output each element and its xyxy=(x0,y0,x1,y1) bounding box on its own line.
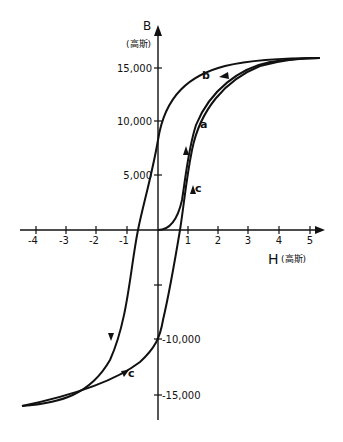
svg-text:a: a xyxy=(200,118,207,131)
arrow-b-down-icon xyxy=(108,333,114,341)
svg-text:c: c xyxy=(128,367,135,380)
svg-text:1: 1 xyxy=(185,235,191,246)
x-axis-unit: (高斯) xyxy=(281,253,306,264)
hysteresis-chart: -4 -3 -2 -1 1 2 3 4 5 H (高斯) 15,000 10,0… xyxy=(0,0,343,442)
svg-text:2: 2 xyxy=(215,235,221,246)
curve-b-descending xyxy=(22,58,320,406)
arrow-a-icon xyxy=(183,146,189,155)
svg-text:c: c xyxy=(195,182,202,195)
x-axis-arrow-icon xyxy=(315,226,325,234)
curve-c-ascending xyxy=(22,58,320,406)
y-axis-label: B xyxy=(143,19,151,33)
svg-text:4: 4 xyxy=(276,235,282,246)
y-axis-arrow-icon xyxy=(154,25,162,36)
svg-text:10,000: 10,000 xyxy=(117,116,152,127)
svg-text:3: 3 xyxy=(245,235,251,246)
svg-text:5: 5 xyxy=(307,235,313,246)
svg-text:-2: -2 xyxy=(89,235,99,246)
curves xyxy=(22,58,320,406)
svg-text:15,000: 15,000 xyxy=(117,63,152,74)
x-tick-labels: -4 -3 -2 -1 1 2 3 4 5 xyxy=(28,235,313,246)
svg-text:-4: -4 xyxy=(28,235,38,246)
svg-text:-3: -3 xyxy=(59,235,69,246)
svg-text:5,000: 5,000 xyxy=(123,170,152,181)
curve-a-initial xyxy=(158,58,320,230)
chart-svg: -4 -3 -2 -1 1 2 3 4 5 H (高斯) 15,000 10,0… xyxy=(0,0,343,442)
svg-text:b: b xyxy=(202,69,210,82)
arrow-b-icon xyxy=(219,72,229,79)
x-axis-label: H xyxy=(268,251,279,267)
svg-text:-15,000: -15,000 xyxy=(162,390,201,401)
svg-text:-1: -1 xyxy=(119,235,129,246)
svg-text:-10,000: -10,000 xyxy=(162,334,201,345)
y-axis-unit: (高斯) xyxy=(126,38,151,49)
